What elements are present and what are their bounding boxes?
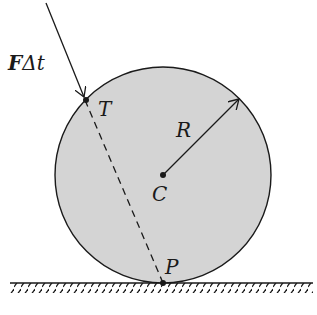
label-p: P (164, 255, 179, 279)
label-r: R (175, 118, 191, 142)
label-c: C (152, 182, 167, 206)
label-t: T (98, 97, 113, 121)
impulse-arrow (46, 3, 84, 97)
point-p (160, 280, 166, 286)
label-impulse: FΔt (7, 51, 46, 75)
point-c (160, 172, 166, 178)
point-t (83, 97, 89, 103)
rolling-disk-diagram: FΔt T R C P (0, 0, 317, 315)
